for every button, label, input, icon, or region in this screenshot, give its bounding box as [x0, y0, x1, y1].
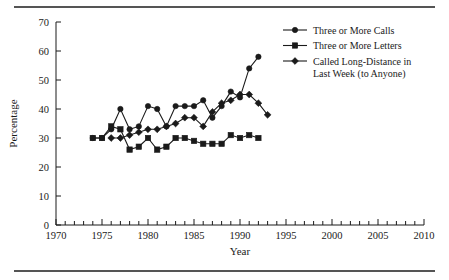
series-1-point — [145, 135, 150, 140]
y-tick-label: 30 — [39, 133, 50, 144]
y-tick-label: 50 — [39, 75, 50, 86]
series-2-point — [172, 120, 179, 127]
legend-marker-1 — [292, 43, 297, 48]
series-1-point — [164, 144, 169, 149]
series-0-point — [228, 89, 233, 94]
line-chart: 0102030405060701970197519801985199019952… — [0, 0, 449, 280]
series-0-point — [182, 103, 187, 108]
series-0-point — [136, 124, 141, 129]
y-tick-label: 20 — [39, 162, 50, 173]
x-tick-label: 1985 — [184, 230, 205, 241]
series-0-point — [127, 127, 132, 132]
series-2-point — [126, 132, 133, 139]
series-2-point — [145, 126, 152, 133]
series-1-point — [90, 135, 95, 140]
y-tick-label: 60 — [39, 46, 50, 57]
series-0-point — [191, 103, 196, 108]
x-tick-label: 2005 — [368, 230, 389, 241]
series-1-point — [173, 135, 178, 140]
series-1-point — [191, 138, 196, 143]
series-2-point — [108, 135, 115, 142]
series-1-point — [109, 124, 114, 129]
legend-label-0: Three or More Calls — [313, 25, 394, 36]
series-2-point — [154, 126, 161, 133]
series-0-point — [118, 106, 123, 111]
x-tick-label: 1990 — [230, 230, 251, 241]
x-tick-label: 1975 — [92, 230, 113, 241]
y-tick-label: 70 — [39, 17, 50, 28]
series-0-point — [145, 103, 150, 108]
x-tick-label: 2000 — [322, 230, 343, 241]
y-axis-title: Percentage — [7, 99, 19, 147]
series-1-point — [228, 132, 233, 137]
x-tick-label: 1980 — [138, 230, 159, 241]
series-1-point — [201, 141, 206, 146]
series-1-point — [136, 144, 141, 149]
series-2-point — [163, 123, 170, 130]
series-1-point — [247, 132, 252, 137]
series-1-point — [182, 135, 187, 140]
legend-label-2: Called Long-Distance in — [313, 56, 411, 67]
series-0-point — [155, 106, 160, 111]
series-1-point — [127, 147, 132, 152]
series-1-point — [99, 135, 104, 140]
legend-label-1: Three or More Letters — [313, 40, 402, 51]
x-tick-label: 1970 — [46, 230, 67, 241]
y-tick-label: 10 — [39, 191, 50, 202]
series-1-point — [219, 141, 224, 146]
x-tick-label: 1995 — [276, 230, 297, 241]
legend-marker-2 — [292, 58, 299, 65]
y-tick-label: 40 — [39, 104, 50, 115]
series-line-2 — [111, 95, 267, 139]
series-0-point — [173, 103, 178, 108]
legend-marker-0 — [292, 27, 297, 32]
series-2-point — [227, 97, 234, 104]
series-2-point — [181, 114, 188, 121]
series-1-point — [256, 135, 261, 140]
x-axis-title: Year — [230, 245, 251, 257]
legend-label-2-line2: Last Week (to Anyone) — [313, 68, 406, 80]
series-0-point — [256, 54, 261, 59]
series-0-point — [247, 66, 252, 71]
series-2-point — [135, 129, 142, 136]
y-tick-label: 0 — [44, 220, 49, 231]
x-tick-label: 2010 — [414, 230, 435, 241]
series-0-point — [201, 98, 206, 103]
series-1-point — [210, 141, 215, 146]
series-1-point — [118, 127, 123, 132]
series-1-point — [155, 147, 160, 152]
series-1-point — [237, 135, 242, 140]
figure-container: 0102030405060701970197519801985199019952… — [0, 0, 449, 280]
